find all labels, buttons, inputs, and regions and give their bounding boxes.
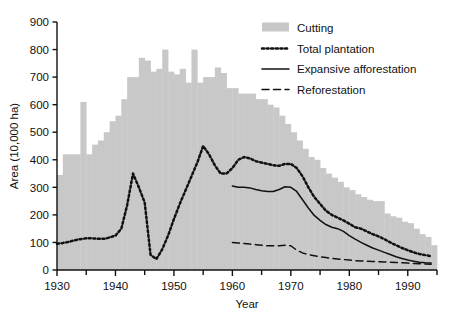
y-tick-label: 0	[43, 264, 49, 276]
x-tick-label: 1980	[337, 280, 363, 292]
x-tick-label: 1990	[395, 280, 421, 292]
cutting-bar	[361, 197, 367, 270]
y-tick-label: 200	[30, 209, 49, 221]
y-axis-title: Area (10,000 ha)	[8, 103, 20, 189]
legend-label: Total plantation	[297, 43, 374, 55]
cutting-bar	[221, 73, 227, 270]
cutting-bar	[92, 145, 98, 270]
cutting-bar	[332, 178, 338, 270]
y-tick-label: 300	[30, 182, 49, 194]
cutting-bar	[425, 237, 431, 270]
area-cutting-plantation-chart: 0100200300400500600700800900193019401950…	[0, 0, 455, 320]
legend-label: Reforestation	[297, 84, 365, 96]
cutting-bar	[349, 190, 355, 270]
cutting-bar	[262, 99, 268, 270]
y-tick-label: 800	[30, 44, 49, 56]
cutting-bar	[355, 194, 361, 270]
x-tick-label: 1960	[220, 280, 246, 292]
cutting-bar	[174, 74, 180, 270]
legend-item: Total plantation	[262, 43, 374, 55]
cutting-bar	[326, 174, 332, 270]
cutting-bar	[57, 175, 63, 270]
x-axis-title: Year	[235, 298, 258, 310]
cutting-bar	[431, 245, 437, 270]
cutting-bar	[379, 201, 385, 270]
legend-item: Expansive afforestation	[262, 63, 416, 75]
cutting-bar	[338, 182, 344, 270]
y-tick-label: 500	[30, 126, 49, 138]
cutting-bar	[156, 69, 162, 270]
x-tick-label: 1930	[44, 280, 70, 292]
cutting-bar	[197, 83, 203, 270]
cutting-bar	[297, 140, 303, 270]
cutting-bar	[151, 72, 157, 270]
cutting-bar	[168, 72, 174, 270]
y-tick-label: 600	[30, 99, 49, 111]
x-tick-label: 1950	[161, 280, 187, 292]
legend-item: Reforestation	[262, 84, 365, 96]
cutting-bar	[104, 132, 110, 270]
legend-swatch-cutting	[262, 23, 289, 32]
cutting-bar	[343, 187, 349, 270]
chart-legend: CuttingTotal plantationExpansive affores…	[262, 22, 416, 96]
cutting-bar	[203, 77, 209, 270]
cutting-bar	[121, 99, 127, 270]
y-tick-label: 700	[30, 71, 49, 83]
cutting-bar	[209, 77, 215, 270]
y-tick-label: 400	[30, 154, 49, 166]
legend-item: Cutting	[262, 22, 333, 34]
cutting-bar	[63, 154, 69, 270]
cutting-bar	[191, 50, 197, 270]
x-axis-ticks-group	[57, 270, 437, 276]
cutting-bar	[75, 154, 81, 270]
legend-label: Cutting	[297, 22, 333, 34]
chart-figure: 0100200300400500600700800900193019401950…	[0, 0, 455, 320]
legend-label: Expansive afforestation	[297, 63, 416, 75]
cutting-bar	[145, 61, 151, 270]
y-tick-label: 900	[30, 16, 49, 28]
cutting-bar	[303, 149, 309, 270]
cutting-bar	[86, 154, 92, 270]
x-tick-label: 1970	[278, 280, 304, 292]
cutting-bar	[320, 168, 326, 270]
x-tick-label: 1940	[103, 280, 129, 292]
cutting-bar	[110, 121, 116, 270]
y-tick-label: 100	[30, 237, 49, 249]
cutting-bar	[314, 160, 320, 270]
cutting-bar	[115, 116, 121, 270]
cutting-bar	[69, 154, 75, 270]
cutting-bar	[80, 102, 86, 270]
cutting-bar	[180, 69, 186, 270]
cutting-bar	[139, 58, 145, 270]
cutting-bar	[279, 116, 285, 270]
cutting-bar	[285, 124, 291, 270]
cutting-bar	[98, 140, 104, 270]
